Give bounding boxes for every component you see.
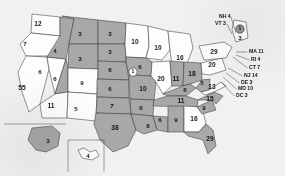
state-label-NE: 6	[108, 66, 112, 73]
state-label-MO: 10	[139, 85, 147, 92]
state-label-MS: 6	[158, 116, 162, 123]
state-label-WV: 5	[200, 79, 204, 86]
state-shape-SD[interactable]	[98, 44, 126, 62]
callout-leader-RI	[236, 55, 250, 60]
state-label-AK: 3	[46, 137, 50, 144]
callout-label-RI: RI 4	[251, 56, 261, 62]
state-shape-KS[interactable]	[97, 79, 129, 98]
electoral-map: 1275564336119533667381061068102061611188…	[0, 0, 285, 176]
state-label-FL: 29	[206, 135, 214, 142]
callout-label-DC: DC 3	[236, 92, 248, 98]
state-label-ID: 4	[53, 47, 57, 54]
state-label-NV: 6	[38, 68, 42, 75]
state-label-AZ: 11	[48, 102, 55, 109]
callout-leader-VT	[227, 24, 232, 34]
callout-label-NH: NH 4	[219, 13, 231, 19]
callout-label-MD: MD 10	[238, 85, 253, 91]
state-shape-IN[interactable]	[170, 61, 184, 86]
state-label-ND: 3	[108, 30, 112, 37]
state-label-WY: 3	[78, 55, 82, 62]
state-label-WI: 10	[154, 44, 162, 51]
state-label-HI: 4	[86, 152, 90, 159]
state-label-UT: 6	[53, 75, 57, 82]
state-label-AR: 6	[139, 104, 143, 111]
callout-leader-MD	[223, 77, 237, 89]
state-label-LA: 8	[146, 122, 150, 129]
state-label-NC: 15	[206, 95, 214, 102]
state-label-OH: 18	[188, 70, 196, 77]
state-label-KS: 6	[108, 85, 112, 92]
state-shape-AK[interactable]	[28, 126, 60, 152]
state-label-WA: 12	[34, 20, 42, 27]
state-label-AL: 9	[174, 116, 178, 123]
us-electoral-map-svg: 1275564336119533667381061068102061611188…	[0, 0, 285, 176]
state-shape-ND[interactable]	[98, 20, 126, 44]
state-label-TN: 11	[178, 97, 185, 104]
state-label-MN: 10	[131, 38, 139, 45]
callout-label-VT: VT 3	[215, 20, 226, 26]
state-label-KY: 8	[183, 86, 187, 93]
callout-label-NJ: NJ 14	[244, 72, 258, 78]
callout-label-MA: MA 11	[249, 48, 264, 54]
state-label-VA: 13	[208, 83, 216, 90]
state-shape-MI[interactable]	[168, 31, 193, 66]
state-label-MI: 16	[176, 54, 184, 61]
state-label-IL: 20	[157, 75, 165, 82]
state-label-OR: 7	[23, 40, 27, 47]
state-label-CO: 9	[80, 79, 84, 86]
state-label-GA: 16	[190, 115, 198, 122]
state-label-IA: 6	[138, 63, 142, 70]
state-label-PA: 20	[208, 61, 216, 68]
state-label-MT: 3	[78, 30, 82, 37]
state-shape-NE[interactable]	[98, 61, 129, 80]
state-label-NM: 5	[74, 105, 78, 112]
split-vote-label-NE-2: 1	[132, 68, 135, 74]
state-label-TX: 38	[111, 124, 119, 131]
callout-leader-DC	[221, 82, 235, 96]
state-label-IN: 11	[173, 75, 180, 82]
state-label-OK: 7	[110, 102, 114, 109]
state-label-NY: 29	[210, 48, 218, 55]
state-shape-WY[interactable]	[68, 44, 98, 69]
state-shape-TN[interactable]	[153, 96, 198, 107]
callout-label-CT: CT 7	[249, 64, 260, 70]
state-label-CA: 55	[18, 84, 26, 91]
state-label-SC: 9	[202, 104, 206, 111]
state-label-ME: 3	[238, 34, 242, 41]
state-label-SD: 3	[108, 48, 112, 55]
split-vote-label-ME-2: 1	[239, 25, 242, 31]
callout-leader-NJ	[228, 68, 243, 76]
state-shape-TX[interactable]	[94, 113, 136, 152]
state-shape-NM[interactable]	[67, 92, 97, 121]
